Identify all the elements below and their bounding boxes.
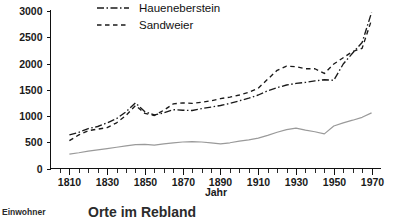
data-series-group — [69, 13, 371, 154]
x-tick-label: 1810 — [58, 176, 82, 188]
series-line-gesamt — [69, 113, 371, 154]
legend-item-haueneberstein: Haueneberstein — [97, 2, 220, 14]
y-tick-label: 2500 — [19, 31, 43, 43]
x-tick-label: 1850 — [134, 176, 158, 188]
y-tick-labels: 050010001500200025003000 — [19, 5, 43, 175]
chart-legend: Haueneberstein Sandweier — [97, 2, 220, 31]
y-axis: 050010001500200025003000 — [19, 5, 50, 175]
x-tick-label: 1970 — [361, 176, 385, 188]
x-tick-label: 1910 — [247, 176, 271, 188]
x-tick-label: 1930 — [285, 176, 309, 188]
caption-main-title: Orte im Rebland — [88, 204, 196, 217]
y-tick-label: 2000 — [19, 58, 43, 70]
y-tick-label: 3000 — [19, 5, 43, 17]
chart-figure: 050010001500200025003000 181018301850187… — [0, 0, 399, 217]
y-tick-label: 1500 — [19, 84, 43, 96]
x-axis: 181018301850187018901910193019501970 Jah… — [51, 169, 385, 199]
legend-item-sandweier: Sandweier — [97, 19, 194, 31]
x-tick-marks — [70, 169, 373, 175]
x-tick-label: 1870 — [172, 176, 196, 188]
y-tick-label: 1000 — [19, 110, 43, 122]
series-line-haueneberstein — [69, 13, 371, 135]
legend-label-haueneberstein: Haueneberstein — [139, 2, 220, 14]
x-tick-label: 1830 — [96, 176, 120, 188]
line-chart: 050010001500200025003000 181018301850187… — [0, 0, 399, 217]
y-tick-label: 0 — [37, 163, 43, 175]
legend-label-sandweier: Sandweier — [139, 19, 194, 31]
caption-left-label: Einwohner — [2, 207, 46, 217]
x-axis-title: Jahr — [205, 186, 227, 198]
figure-caption: Einwohner Orte im Rebland — [2, 204, 196, 217]
x-tick-label: 1950 — [323, 176, 347, 188]
y-tick-label: 500 — [25, 136, 43, 148]
